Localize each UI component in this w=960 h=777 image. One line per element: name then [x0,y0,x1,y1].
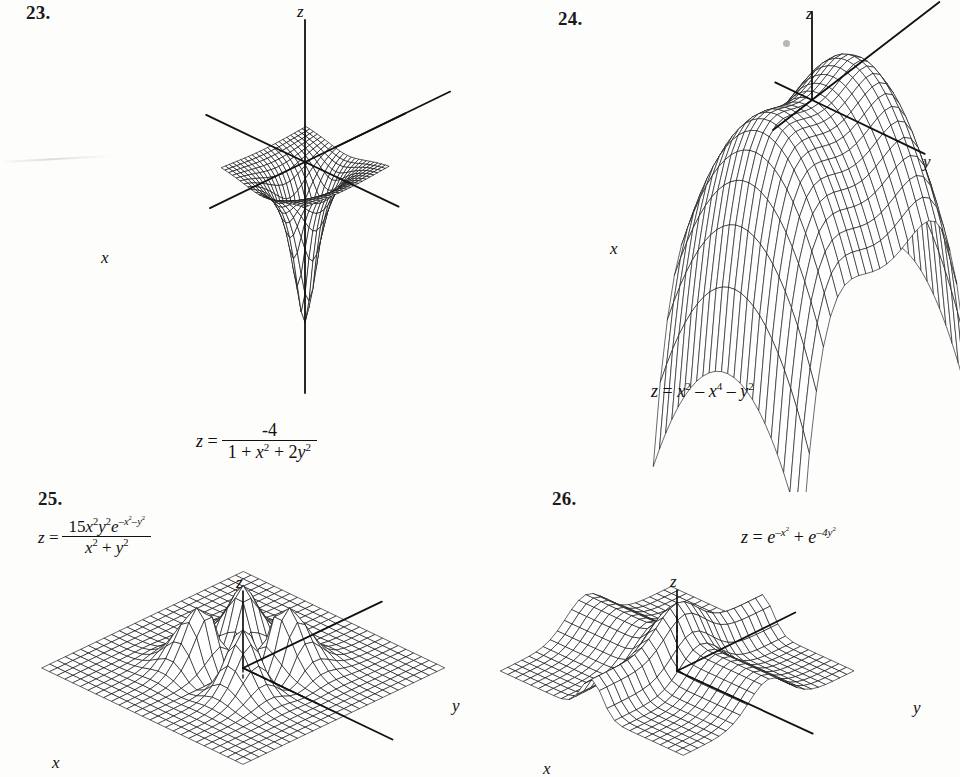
axis-label-y-25: y [450,696,460,715]
figure-24: 24. zxy z = x2 – x4 – y2 [480,0,960,492]
figure-26: 26. zxy z = e–x2 + e–4y2 [480,486,960,777]
formula-24: z = x2 – x4 – y2 [651,382,754,400]
formula-26: z = e–x2 + e–4y2 [741,528,836,546]
axis-label-z-24: z [805,4,813,23]
figure-25: 25. zxy z =15x2y2e–x2–y2x2 + y2 [0,486,480,777]
formula-25-numerator: 15x2y2e–x2–y2 [62,518,151,537]
formula-23-denominator: 1 + x2 + 2y2 [222,441,317,461]
axis-label-x-24: x [609,239,618,258]
axis-label-x-25: x [51,753,60,772]
axis-label-z-26: z [669,572,677,591]
surface-plot-24: zxy [480,0,960,492]
axis-label-y-26: y [911,698,921,717]
axis-label-y-24: y [921,152,931,171]
formula-23: z =-41 + x2 + 2y2 [196,421,317,461]
surface-plot-26: zxy [480,486,960,777]
axis-label-x-26: x [542,759,551,777]
axis-label-z-25: z [235,573,243,592]
formula-25: z =15x2y2e–x2–y2x2 + y2 [38,518,151,556]
axis-label-z-23: z [296,2,304,21]
textbook-page: 23. zxy z =-41 + x2 + 2y2 24. zxy z = x2… [0,0,960,777]
surface-plot-23: zxy [0,0,480,492]
formula-25-denominator: x2 + y2 [62,537,151,556]
formula-23-numerator: -4 [222,421,317,441]
figure-23: 23. zxy z =-41 + x2 + 2y2 [0,0,480,492]
axis-label-x-23: x [100,248,109,267]
